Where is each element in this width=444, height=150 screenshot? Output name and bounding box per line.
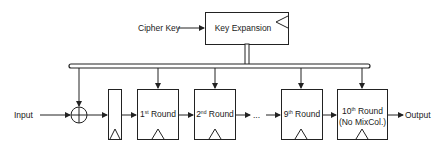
input-label: Input (14, 111, 33, 120)
key-expansion-label: Key Expansion (205, 24, 281, 33)
output-label: Output (405, 111, 431, 120)
round-2-label: 2nd Round (194, 110, 236, 119)
round-9-label: 9th Round (281, 110, 323, 119)
round-1-label: 1st Round (137, 110, 179, 119)
aes-diagram: Cipher Key Key Expansion Input Output ..… (0, 0, 444, 150)
key-connector (245, 44, 249, 66)
cipher-key-label: Cipher Key (138, 24, 180, 33)
register-box (109, 90, 122, 140)
xor-icon (71, 107, 87, 123)
ellipsis: ... (253, 111, 260, 120)
key-bus (69, 64, 370, 68)
round-10-note: (No MixCol.) (337, 117, 388, 128)
round-10-label: 10th Round (No MixCol.) (337, 104, 388, 128)
